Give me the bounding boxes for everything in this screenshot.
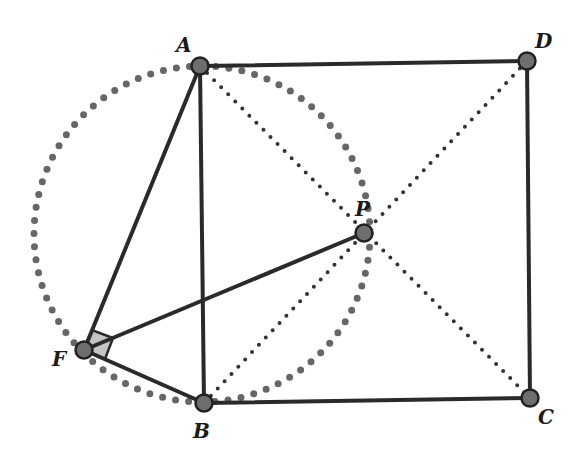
- label-C: C: [538, 405, 554, 429]
- label-B: B: [192, 419, 210, 443]
- point-C: [522, 390, 539, 407]
- point-B: [196, 395, 213, 412]
- label-D: D: [534, 29, 553, 53]
- side-BA: [200, 66, 204, 403]
- label-F: F: [51, 347, 68, 371]
- label-P: P: [354, 197, 371, 221]
- point-F: [76, 342, 93, 359]
- point-P: [356, 225, 373, 242]
- point-D: [519, 53, 536, 70]
- point-A: [192, 58, 209, 75]
- label-A: A: [174, 33, 192, 57]
- side-CB: [204, 398, 530, 403]
- segment-FB: [84, 350, 204, 403]
- side-DC: [527, 61, 530, 398]
- side-AD: [200, 61, 527, 66]
- geometry-diagram: A B C D P F: [0, 0, 588, 456]
